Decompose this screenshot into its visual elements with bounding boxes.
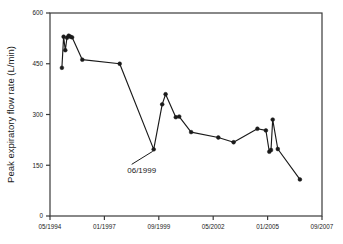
data-point-marker: [298, 178, 302, 182]
y-tick-label: 600: [32, 9, 43, 16]
y-tick-label: 150: [32, 162, 43, 169]
data-point-marker: [177, 115, 181, 119]
data-point-marker: [276, 147, 280, 151]
data-point-marker: [216, 136, 220, 140]
y-tick-label: 300: [32, 111, 43, 118]
plot-border: [50, 13, 322, 216]
annotation-label: 06/1999: [127, 166, 156, 175]
data-point-marker: [152, 147, 156, 151]
data-point-marker: [189, 130, 193, 134]
peak-flow-line-chart: 0150300450600 05/199401/199709/199905/20…: [0, 0, 343, 244]
x-tick-label: 09/2007: [311, 223, 334, 230]
data-series: [60, 34, 302, 182]
annotation-leader-line: [132, 151, 153, 164]
y-tick-label: 450: [32, 60, 43, 67]
data-point-marker: [80, 58, 84, 62]
data-point-marker: [118, 62, 122, 66]
data-point-marker: [70, 35, 74, 39]
data-point-marker: [264, 129, 268, 133]
y-tick-label: 0: [39, 212, 43, 219]
plot-frame: [50, 13, 322, 216]
data-point-marker: [63, 48, 67, 52]
data-point-marker: [164, 92, 168, 96]
x-tick-label: 01/1997: [93, 223, 116, 230]
x-tick-label: 01/2005: [256, 223, 279, 230]
chart-container: 0150300450600 05/199401/199709/199905/20…: [0, 0, 343, 244]
y-axis: 0150300450600: [32, 9, 50, 219]
data-point-marker: [60, 66, 64, 70]
x-axis: 05/199401/199709/199905/200201/200509/20…: [39, 216, 334, 230]
annotation-06-1999: 06/1999: [127, 151, 156, 175]
data-point-marker: [160, 102, 164, 106]
data-point-marker: [232, 140, 236, 144]
x-tick-label: 05/2002: [202, 223, 225, 230]
x-tick-label: 09/1999: [147, 223, 170, 230]
data-point-marker: [256, 127, 260, 131]
data-point-marker: [174, 115, 178, 119]
series-line: [62, 36, 300, 180]
data-point-marker: [271, 118, 275, 122]
y-axis-label: Peak expiratory flow rate (L/min): [5, 46, 16, 183]
data-point-marker: [269, 148, 273, 152]
x-tick-label: 05/1994: [39, 223, 62, 230]
